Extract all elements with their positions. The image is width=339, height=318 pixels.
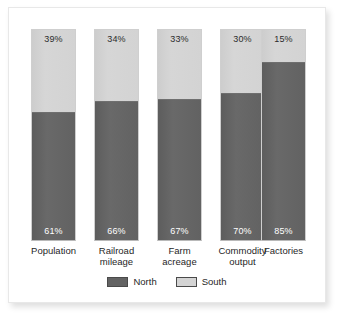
bar-segment-south: 39% [32, 30, 75, 112]
category-label-line: output [207, 256, 278, 267]
bar-label-north: 66% [95, 226, 138, 236]
bar-group-population: 39% 61% Population [31, 29, 76, 241]
category-label-line: mileage [81, 256, 152, 267]
chart-card: 39% 61% Population 34% 66% Railro [8, 7, 326, 303]
bar-label-north: 61% [32, 226, 75, 236]
bar-group-farm-acreage: 33% 67% Farm acreage [157, 29, 202, 241]
category-label-line: Population [18, 245, 89, 256]
bar-segment-north: 66% [95, 101, 138, 240]
bar-segment-north: 61% [32, 112, 75, 240]
bar-segment-south: 30% [221, 30, 264, 93]
bar-segment-south: 15% [262, 30, 305, 62]
bar-label-north: 70% [221, 226, 264, 236]
bar-segment-north: 85% [262, 62, 305, 241]
stacked-bar: 39% 61% [31, 29, 76, 241]
bar-label-south: 34% [95, 34, 138, 44]
category-label-line: acreage [144, 256, 215, 267]
category-label-railroad-mileage: Railroad mileage [81, 245, 152, 267]
stacked-bar: 30% 70% [220, 29, 265, 241]
chart-legend: North South [9, 276, 325, 287]
bar-label-north: 67% [158, 226, 201, 236]
bar-label-north: 85% [262, 226, 305, 236]
legend-label-south: South [202, 276, 227, 287]
stacked-bar: 33% 67% [157, 29, 202, 241]
bar-segment-north: 67% [158, 99, 201, 240]
bar-segment-north: 70% [221, 93, 264, 240]
stacked-bar: 15% 85% [261, 29, 306, 241]
plot-area: 39% 61% Population 34% 66% Railro [9, 8, 325, 302]
bar-segment-south: 33% [158, 30, 201, 99]
legend-entry-south: South [176, 276, 227, 287]
bar-label-south: 30% [221, 34, 264, 44]
category-label-farm-acreage: Farm acreage [144, 245, 215, 267]
legend-entry-north: North [107, 276, 156, 287]
bar-label-south: 33% [158, 34, 201, 44]
stacked-bar: 34% 66% [94, 29, 139, 241]
legend-label-north: North [133, 276, 156, 287]
bar-group-commodity-output: 30% 70% Commodity output [220, 29, 265, 241]
bar-segment-south: 34% [95, 30, 138, 101]
category-label-factories: Factories [248, 245, 319, 256]
bar-group-railroad-mileage: 34% 66% Railroad mileage [94, 29, 139, 241]
legend-swatch-north-icon [107, 277, 128, 287]
category-label-line: Farm [144, 245, 215, 256]
bar-label-south: 39% [32, 34, 75, 44]
category-label-population: Population [18, 245, 89, 256]
category-label-line: Factories [248, 245, 319, 256]
bar-label-south: 15% [262, 34, 305, 44]
category-label-line: Railroad [81, 245, 152, 256]
legend-swatch-south-icon [176, 277, 197, 287]
bar-group-factories: 15% 85% Factories [261, 29, 306, 241]
